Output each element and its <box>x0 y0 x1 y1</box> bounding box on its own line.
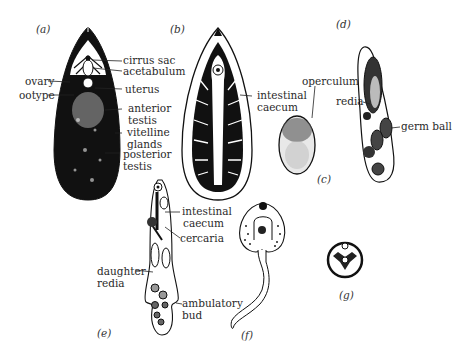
sporocyst-drawing <box>358 47 400 182</box>
digestive-system-drawing <box>182 28 252 200</box>
redia-drawing <box>135 180 182 335</box>
label-daughter-redia-1: daughter <box>97 266 146 277</box>
cercaria-drawing <box>231 202 285 328</box>
label-posterior-testis-1: posterior <box>123 149 172 160</box>
label-daughter-redia-2: redia <box>97 278 125 289</box>
label-ambulatory-bud-1: ambulatory <box>182 298 243 309</box>
label-intestinal-caecum-b-1: intestinal <box>257 90 307 101</box>
metacercaria-drawing <box>328 243 362 277</box>
label-intestinal-caecum-e-1: intestinal <box>182 206 232 217</box>
adult-fluke-drawing <box>54 27 120 200</box>
panel-a-letter: (a) <box>36 23 50 35</box>
label-uterus: uterus <box>125 84 159 95</box>
panel-d-letter: (d) <box>336 18 351 30</box>
panel-e-letter: (e) <box>97 327 111 339</box>
label-posterior-testis-2: testis <box>123 161 152 172</box>
label-anterior-testis-1: anterior <box>128 103 171 114</box>
panel-f-letter: (f) <box>241 329 253 341</box>
label-vitelline-1: vitelline <box>127 127 170 138</box>
label-intestinal-caecum-b-2: caecum <box>257 102 298 113</box>
panel-b-letter: (b) <box>170 23 185 35</box>
label-germ-ball: germ ball <box>401 121 452 132</box>
label-ambulatory-bud-2: bud <box>182 310 202 321</box>
label-intestinal-caecum-e-2: caecum <box>183 218 224 229</box>
label-ovary: ovary <box>25 76 54 87</box>
label-redia-d: redia <box>336 96 364 107</box>
panel-g-letter: (g) <box>339 289 354 301</box>
label-ootype: ootype <box>19 90 55 101</box>
label-acetabulum: acetabulum <box>123 66 185 77</box>
label-operculum: operculum <box>302 76 359 87</box>
label-cercaria: cercaria <box>180 233 224 244</box>
panel-c-letter: (c) <box>317 173 331 185</box>
label-anterior-testis-2: testis <box>128 115 157 126</box>
